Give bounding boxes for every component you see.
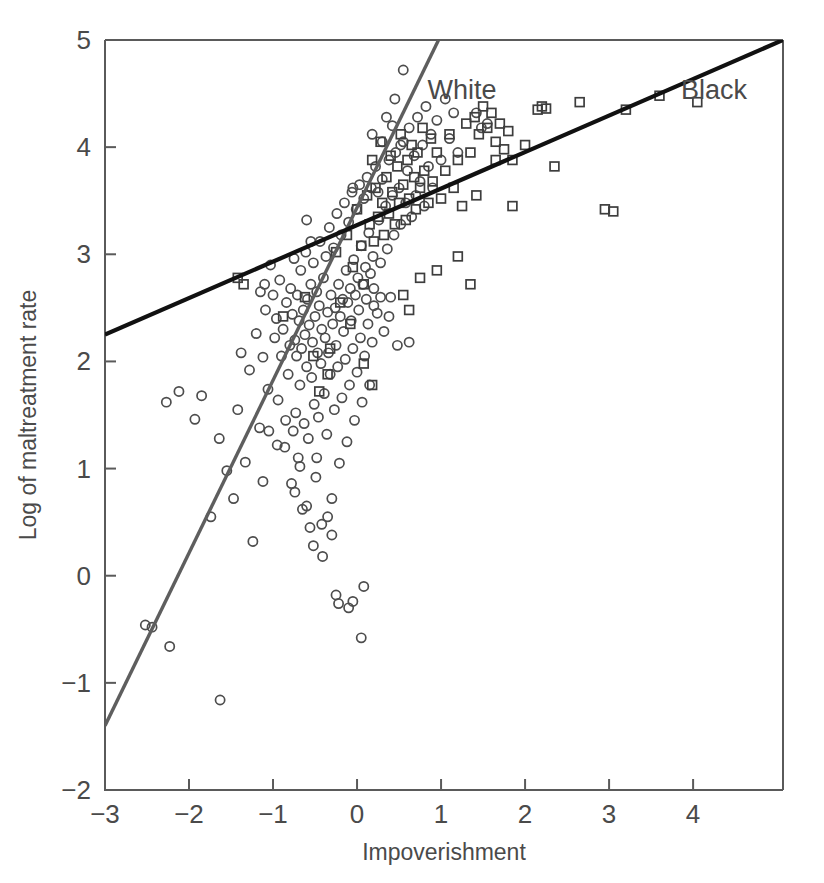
data-point-circle	[332, 209, 341, 218]
x-tick-label: −1	[258, 799, 288, 829]
data-point-square	[609, 207, 618, 216]
data-point-square	[575, 98, 584, 107]
data-point-circle	[197, 391, 206, 400]
data-point-circle	[229, 494, 238, 503]
data-point-circle	[290, 488, 299, 497]
data-point-circle	[403, 166, 412, 175]
data-point-square	[550, 162, 559, 171]
data-point-circle	[297, 344, 306, 353]
data-point-circle	[252, 329, 261, 338]
data-point-circle	[357, 633, 366, 642]
data-point-circle	[383, 244, 392, 253]
data-point-square	[453, 252, 462, 261]
axes-frame	[105, 40, 783, 790]
data-point-circle	[357, 398, 366, 407]
data-point-circle	[165, 642, 174, 651]
data-point-circle	[351, 290, 360, 299]
series-black	[233, 91, 701, 396]
plot-data	[105, 40, 783, 726]
data-point-square	[466, 280, 475, 289]
data-point-circle	[273, 395, 282, 404]
data-point-circle	[379, 327, 388, 336]
data-point-circle	[294, 453, 303, 462]
data-point-square	[399, 291, 408, 300]
series-label-black: Black	[681, 75, 748, 105]
data-point-circle	[272, 314, 281, 323]
data-point-circle	[295, 462, 304, 471]
scatter-plot-figure: −3−2−101234−2−1012345ImpoverishmentLog o…	[0, 0, 824, 883]
data-point-circle	[366, 269, 375, 278]
data-point-circle	[291, 408, 300, 417]
data-point-square	[600, 205, 609, 214]
data-point-circle	[376, 258, 385, 267]
data-point-circle	[346, 284, 355, 293]
data-point-circle	[449, 108, 458, 117]
data-point-circle	[275, 275, 284, 284]
data-point-circle	[340, 198, 349, 207]
axis-left-bottom	[105, 40, 783, 790]
x-axis-title: Impoverishment	[362, 839, 526, 865]
data-point-circle	[237, 348, 246, 357]
data-point-square	[487, 108, 496, 117]
x-tick-label: −2	[174, 799, 204, 829]
data-point-circle	[309, 258, 318, 267]
x-tick-label: 1	[434, 799, 448, 829]
data-point-circle	[331, 341, 340, 350]
data-point-circle	[353, 273, 362, 282]
data-point-circle	[248, 537, 257, 546]
data-point-circle	[304, 434, 313, 443]
data-point-circle	[190, 415, 199, 424]
data-point-circle	[356, 333, 365, 342]
chart-canvas: −3−2−101234−2−1012345ImpoverishmentLog o…	[0, 0, 824, 883]
data-point-circle	[289, 426, 298, 435]
data-point-circle	[281, 416, 290, 425]
data-point-circle	[322, 430, 331, 439]
data-point-circle	[348, 344, 357, 353]
data-point-circle	[399, 65, 408, 74]
data-point-circle	[382, 113, 391, 122]
data-point-square	[380, 231, 389, 240]
data-point-circle	[326, 370, 335, 379]
data-point-circle	[336, 312, 345, 321]
data-point-circle	[309, 541, 318, 550]
data-point-circle	[284, 370, 293, 379]
y-tick-label: 4	[77, 132, 91, 162]
data-point-circle	[310, 400, 319, 409]
data-point-square	[472, 191, 481, 200]
data-point-square	[441, 166, 450, 175]
data-point-circle	[334, 599, 343, 608]
data-point-circle	[326, 290, 335, 299]
data-point-circle	[432, 116, 441, 125]
data-point-circle	[174, 387, 183, 396]
data-point-square	[393, 162, 402, 171]
data-point-circle	[369, 284, 378, 293]
data-point-square	[491, 137, 500, 146]
data-point-circle	[261, 305, 270, 314]
data-point-circle	[307, 373, 316, 382]
data-point-circle	[405, 338, 414, 347]
data-point-square	[500, 145, 509, 154]
data-point-circle	[352, 368, 361, 377]
data-point-square	[416, 273, 425, 282]
data-point-circle	[162, 398, 171, 407]
data-point-circle	[264, 426, 273, 435]
data-point-circle	[314, 413, 323, 422]
data-point-circle	[279, 325, 288, 334]
data-point-circle	[327, 494, 336, 503]
data-point-circle	[345, 380, 354, 389]
data-point-square	[466, 148, 475, 157]
data-point-circle	[296, 266, 305, 275]
data-point-circle	[341, 355, 350, 364]
data-point-square	[508, 202, 517, 211]
data-point-circle	[342, 266, 351, 275]
data-point-circle	[305, 523, 314, 532]
data-point-circle	[295, 380, 304, 389]
data-point-circle	[241, 458, 250, 467]
data-point-square	[369, 237, 378, 246]
x-tick-label: 0	[350, 799, 364, 829]
data-point-circle	[327, 530, 336, 539]
data-point-circle	[315, 301, 324, 310]
y-tick-label: 1	[77, 454, 91, 484]
data-point-circle	[365, 380, 374, 389]
data-point-circle	[256, 287, 265, 296]
